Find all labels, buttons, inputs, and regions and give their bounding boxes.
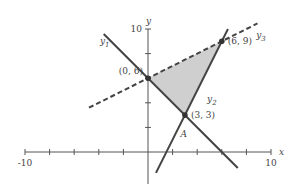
line-y2 (156, 29, 228, 173)
x-tick-label: 10 (265, 158, 277, 168)
vertex-label: (3, 3) (191, 110, 215, 120)
x-tick-label: -10 (18, 158, 33, 168)
feasible-region (148, 41, 222, 115)
vertex-point (219, 39, 225, 45)
line-label-y2: y2 (206, 94, 217, 107)
y-tick-label: 10 (131, 24, 143, 34)
vertex-point (145, 75, 151, 81)
line-y1 (104, 34, 238, 168)
vertex-label: (0, 6) (119, 66, 143, 76)
vertex-point (182, 112, 188, 118)
annotation-label: A (179, 129, 187, 139)
x-axis-label: x (279, 147, 284, 157)
feasible-region-chart: -101010xyy1y2y3(0, 6)(6, 9)(3, 3)A (0, 0, 297, 184)
vertex-label: (6, 9) (228, 36, 252, 46)
line-label-y3: y3 (255, 30, 266, 43)
y-axis-label: y (145, 16, 152, 26)
